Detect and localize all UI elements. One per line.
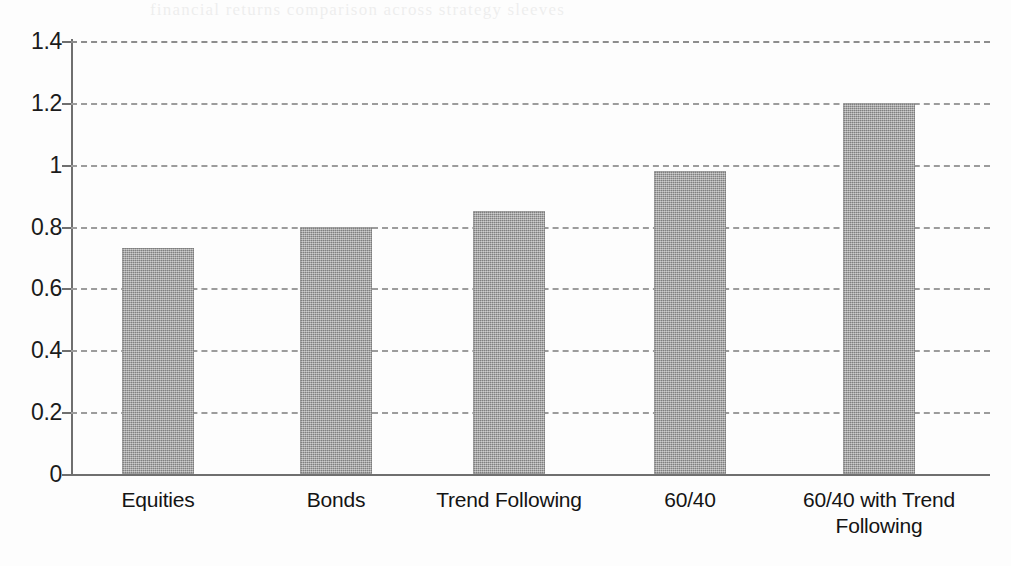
- y-axis-tick-label: 0.6: [0, 275, 62, 302]
- y-axis-tick: [62, 474, 71, 476]
- y-axis-tick-label: 0: [0, 461, 62, 488]
- x-axis-line: [71, 474, 990, 476]
- y-axis-tick: [62, 227, 71, 229]
- y-axis-tick: [62, 165, 71, 167]
- gridline: [71, 41, 990, 43]
- y-axis-tick-label: 0.8: [0, 213, 62, 240]
- y-axis-tick-labels: 00.20.40.60.811.21.4: [0, 41, 62, 474]
- y-axis-tick: [62, 350, 71, 352]
- x-axis-category-label-line: 60/40 with Trend: [803, 488, 955, 511]
- plot-area: [71, 41, 990, 474]
- bar[interactable]: [654, 171, 726, 474]
- y-axis-tick-label: 1.4: [0, 28, 62, 55]
- x-axis-category-label-line: Equities: [121, 488, 194, 511]
- y-axis-tick: [62, 412, 71, 414]
- bar[interactable]: [300, 227, 372, 474]
- scan-bleed-through-text: financial returns comparison across stra…: [150, 0, 970, 22]
- y-axis-tick: [62, 288, 71, 290]
- bar[interactable]: [473, 211, 545, 474]
- x-axis-category-label-line: Trend Following: [436, 488, 582, 511]
- y-axis-tick-label: 1: [0, 151, 62, 178]
- x-axis-category-label-line: 60/40: [664, 488, 716, 511]
- bar[interactable]: [122, 248, 194, 474]
- y-axis-tick-label: 0.2: [0, 399, 62, 426]
- chart-page: financial returns comparison across stra…: [0, 0, 1011, 566]
- y-axis-tick-label: 0.4: [0, 337, 62, 364]
- y-axis-tick: [62, 41, 71, 43]
- y-axis-tick-label: 1.2: [0, 89, 62, 116]
- x-axis-category-label: 60/40 with TrendFollowing: [764, 487, 994, 539]
- x-axis-category-label-line: Following: [764, 513, 994, 539]
- x-axis-category-label-line: Bonds: [307, 488, 366, 511]
- y-axis-tick: [62, 103, 71, 105]
- bar[interactable]: [843, 103, 915, 474]
